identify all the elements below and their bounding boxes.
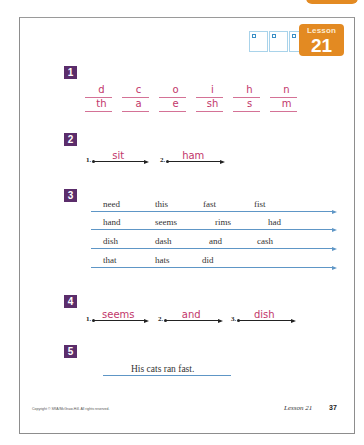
word: rims: [215, 217, 231, 227]
letter-blank[interactable]: e: [157, 98, 194, 112]
answer-blank[interactable]: dish: [238, 310, 296, 324]
handwritten-letter: d: [83, 84, 120, 96]
section-number-2: 2: [64, 133, 77, 146]
word: that: [103, 255, 117, 265]
word: hats: [155, 255, 170, 265]
word: cash: [257, 236, 273, 246]
handwritten-letter: h: [231, 84, 268, 96]
item-number: 2.: [158, 315, 163, 324]
item-number: 2.: [160, 156, 165, 165]
handwritten-letter: a: [120, 98, 157, 110]
word: dash: [155, 236, 172, 246]
arrow-right-icon: [218, 319, 223, 323]
word: fast: [203, 199, 216, 209]
handwritten-answer: dish: [238, 309, 290, 320]
word: this: [155, 199, 168, 209]
answer-item-2-2: 2. ham: [160, 149, 225, 165]
letter-row-1: d c o i h n: [83, 84, 305, 98]
word-row-1: need this fast fist: [91, 195, 337, 212]
item-number: 3.: [231, 315, 236, 324]
letter-blank[interactable]: th: [83, 98, 120, 112]
handwritten-letter: th: [83, 98, 120, 110]
letter-row-2: th a e sh s m: [83, 98, 305, 112]
arrow-right-icon: [220, 160, 225, 164]
letter-blank[interactable]: d: [83, 84, 120, 98]
word: did: [202, 255, 214, 265]
word: need: [103, 199, 120, 209]
section-number-1: 1: [64, 66, 77, 79]
letter-blank[interactable]: c: [120, 84, 157, 98]
word-row-2: hand seems rims had: [91, 213, 337, 230]
lesson-number: 21: [299, 36, 344, 55]
page-number: 37: [329, 404, 337, 411]
letter-blank[interactable]: h: [231, 84, 268, 98]
letter-blank[interactable]: i: [194, 84, 231, 98]
word: and: [209, 236, 222, 246]
word: dish: [103, 236, 118, 246]
item-number: 1.: [86, 315, 91, 324]
word: fist: [254, 199, 266, 209]
handwritten-letter: c: [120, 84, 157, 96]
checkbox-icon: [292, 34, 296, 38]
handwritten-letter: m: [268, 98, 305, 110]
handwritten-answer: seems: [93, 309, 143, 320]
handwritten-letter: o: [157, 84, 194, 96]
handwritten-letter: e: [157, 98, 194, 110]
letter-blank[interactable]: m: [268, 98, 305, 112]
handwritten-letter: sh: [194, 98, 231, 110]
answer-item-4-2: 2. and: [158, 308, 223, 324]
section-number-4: 4: [64, 295, 77, 308]
section-number-5: 5: [64, 345, 77, 358]
word-row-3: dish dash and cash: [91, 232, 337, 249]
answer-blank[interactable]: seems: [93, 310, 149, 324]
letter-blank[interactable]: sh: [194, 98, 231, 112]
answer-blank[interactable]: and: [165, 310, 223, 324]
section-number-3: 3: [64, 189, 77, 202]
footer-lesson: Lesson 21: [284, 404, 312, 412]
word: had: [268, 217, 281, 227]
word-row-4: that hats did: [91, 251, 337, 268]
word: seems: [155, 217, 177, 227]
handwritten-letter: i: [194, 84, 231, 96]
answer-item-2-1: 1. sit: [86, 149, 149, 165]
checkbox-icon: [252, 34, 256, 38]
handwritten-answer: and: [165, 309, 217, 320]
score-box-1[interactable]: [249, 31, 268, 52]
answer-blank[interactable]: ham: [167, 151, 225, 165]
arrow-right-icon: [332, 266, 337, 270]
word: hand: [103, 217, 121, 227]
arrow-right-icon: [291, 319, 296, 323]
answer-item-4-3: 3. dish: [231, 308, 296, 324]
letter-blank[interactable]: a: [120, 98, 157, 112]
lesson-badge: Lesson 21: [299, 24, 344, 56]
letter-blank[interactable]: n: [268, 84, 305, 98]
handwritten-letter: s: [231, 98, 268, 110]
letter-blank[interactable]: s: [231, 98, 268, 112]
letter-blank[interactable]: o: [157, 84, 194, 98]
arrow-right-icon: [144, 319, 149, 323]
arrow-right-icon: [144, 160, 149, 164]
handwritten-answer: ham: [167, 150, 219, 161]
top-tab-decoration: [306, 0, 358, 4]
copyright-text: Copyright © SRA/McGraw-Hill. All rights …: [32, 407, 109, 411]
answer-item-4-1: 1. seems: [86, 308, 149, 324]
answer-blank[interactable]: sit: [93, 151, 149, 165]
sentence-text: His cats ran fast.: [131, 364, 194, 374]
item-number: 1.: [86, 156, 91, 165]
handwritten-answer: sit: [93, 150, 143, 161]
score-box-2[interactable]: [269, 31, 288, 52]
checkbox-icon: [272, 34, 276, 38]
sentence-line[interactable]: His cats ran fast.: [103, 362, 231, 376]
handwritten-letter: n: [268, 84, 305, 96]
